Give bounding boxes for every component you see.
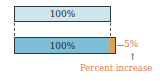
right-dashed-guide [110, 23, 111, 36]
left-dashed-guide [14, 23, 15, 36]
leader-line [117, 45, 124, 46]
new-amount-bar: 100% [14, 37, 111, 54]
original-amount-bar: 100% [14, 6, 111, 22]
original-amount-label: 100% [50, 9, 76, 19]
new-amount-label: 100% [50, 41, 76, 51]
increase-percent-label: 5% [124, 39, 138, 49]
increase-segment [110, 37, 116, 54]
percent-increase-caption: Percent increase [80, 63, 152, 73]
arrow-up-icon: ↑ [129, 53, 137, 62]
